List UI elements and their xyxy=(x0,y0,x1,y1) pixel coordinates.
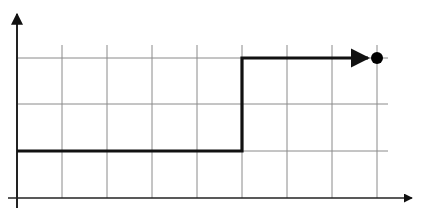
grid xyxy=(17,45,388,198)
step-graph-canvas xyxy=(0,0,424,221)
endpoint-dot-circle xyxy=(371,52,383,64)
endpoint-dot xyxy=(371,52,383,64)
step-graph xyxy=(0,0,424,221)
axes xyxy=(8,14,412,208)
